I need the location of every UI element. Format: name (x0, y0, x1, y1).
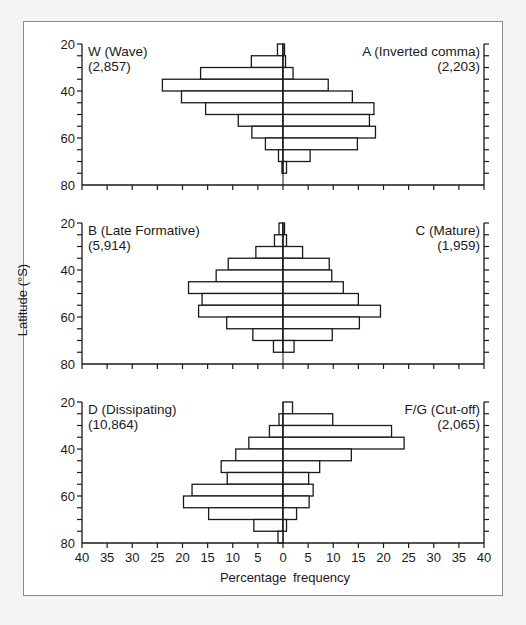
panel-right-count: (2,065) (437, 417, 480, 432)
bar-left (249, 437, 283, 449)
x-tick-label: 25 (401, 550, 415, 565)
bar-left (254, 520, 283, 532)
bar-left (162, 79, 283, 91)
bar-right (283, 282, 343, 294)
bar-right (283, 235, 287, 247)
bar-left (181, 91, 283, 103)
panel-right-name: F/G (Cut-off) (404, 402, 480, 417)
y-tick-label: 60 (61, 489, 75, 504)
bar-right (283, 449, 351, 461)
panel-left-count: (5,914) (88, 238, 131, 253)
bar-right (283, 162, 287, 174)
y-tick-label: 60 (61, 131, 75, 146)
bar-right (283, 329, 332, 341)
y-tick-label: 40 (61, 84, 75, 99)
bar-right (283, 150, 310, 162)
bar-right (283, 484, 313, 496)
y-tick-label: 40 (61, 263, 75, 278)
y-tick-label: 80 (61, 536, 75, 551)
bar-left (269, 426, 283, 438)
x-tick-label: 5 (305, 550, 312, 565)
bar-left (199, 305, 283, 317)
x-tick-label: 30 (427, 550, 441, 565)
bar-right (283, 126, 375, 138)
x-tick-label: 10 (326, 550, 340, 565)
bar-right (283, 91, 352, 103)
bar-right (283, 520, 287, 532)
bar-right (283, 508, 297, 520)
y-axis-label: Latitude (°S) (15, 264, 30, 336)
bar-right (283, 426, 392, 438)
bar-left (189, 282, 283, 294)
bar-left (192, 484, 283, 496)
bar-left (278, 150, 283, 162)
x-tick-label: 10 (226, 550, 240, 565)
x-tick-label: 40 (75, 550, 89, 565)
y-tick-label: 20 (61, 37, 75, 52)
bar-right (283, 270, 332, 282)
x-tick-label: 35 (100, 550, 114, 565)
panel-right-name: C (Mature) (415, 223, 480, 238)
bar-right (283, 305, 380, 317)
bar-left (202, 294, 283, 306)
bar-left (277, 44, 283, 56)
x-tick-label: 40 (477, 550, 491, 565)
bar-right (283, 138, 357, 150)
bar-left (251, 56, 283, 68)
bar-left (236, 449, 283, 461)
x-tick-label: 5 (254, 550, 261, 565)
bar-right (283, 402, 293, 414)
bar-right (283, 68, 293, 80)
x-tick-label: 15 (200, 550, 214, 565)
bar-left (206, 103, 283, 115)
x-tick-label: 0 (279, 550, 286, 565)
y-tick-label: 20 (61, 216, 75, 231)
y-tick-label: 80 (61, 357, 75, 372)
y-tick-label: 20 (61, 395, 75, 410)
bar-left (227, 473, 283, 485)
panel-right-count: (2,203) (437, 59, 480, 74)
bar-left (201, 68, 283, 80)
x-tick-label: 20 (376, 550, 390, 565)
bar-left (273, 341, 283, 353)
bar-left (221, 461, 283, 473)
x-tick-label: 20 (175, 550, 189, 565)
panel-right-count: (1,959) (437, 238, 480, 253)
bar-right (283, 414, 333, 426)
bar-right (283, 473, 309, 485)
panel-left-name: W (Wave) (88, 44, 148, 59)
bar-left (256, 247, 283, 259)
x-tick-label: 35 (452, 550, 466, 565)
bar-left (227, 317, 283, 329)
panel-left-count: (10,864) (88, 417, 138, 432)
panel-left-name: B (Late Formative) (88, 223, 200, 238)
chart-canvas: 20406080W (Wave)(2,857)A (Inverted comma… (0, 0, 526, 625)
x-tick-label: 25 (150, 550, 164, 565)
bar-right (283, 317, 359, 329)
y-tick-label: 80 (61, 178, 75, 193)
panel-right-name: A (Inverted comma) (362, 44, 480, 59)
y-tick-label: 60 (61, 310, 75, 325)
bar-left (238, 115, 283, 127)
bar-right (283, 103, 374, 115)
bar-left (278, 531, 283, 543)
bar-left (216, 270, 283, 282)
x-axis-label: Percentage frequency (220, 570, 350, 585)
bar-right (283, 437, 404, 449)
bar-right (283, 79, 328, 91)
x-tick-label: 15 (351, 550, 365, 565)
bar-right (283, 341, 294, 353)
bar-left (228, 258, 283, 270)
x-tick-label: 30 (125, 550, 139, 565)
bar-left (184, 496, 283, 508)
bar-left (274, 235, 283, 247)
panel-left-name: D (Dissipating) (88, 402, 177, 417)
bar-right (283, 294, 358, 306)
bar-right (283, 461, 320, 473)
bar-left (209, 508, 283, 520)
bar-left (252, 126, 283, 138)
bar-left (265, 138, 283, 150)
y-tick-label: 40 (61, 442, 75, 457)
panel-left-count: (2,857) (88, 59, 131, 74)
bar-right (283, 258, 329, 270)
